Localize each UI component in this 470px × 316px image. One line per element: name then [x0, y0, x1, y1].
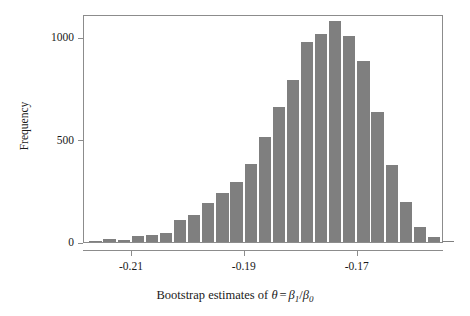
histogram-bar — [315, 34, 327, 242]
x-tick-label: -0.19 — [214, 260, 274, 272]
equals-symbol: = — [278, 288, 289, 302]
histogram-bar — [287, 80, 299, 242]
histogram-bar — [428, 237, 440, 242]
histogram-bar — [118, 240, 130, 242]
y-tick-label: 1000 — [51, 32, 74, 44]
histogram-bar — [174, 220, 186, 242]
histogram-bar — [202, 203, 214, 242]
histogram-figure: 05001000 Frequency -0.21-0.19-0.17 Boots… — [0, 0, 470, 316]
x-tick-label: -0.21 — [101, 260, 161, 272]
beta-denominator-subscript: 0 — [309, 294, 314, 304]
x-axis-title-prefix: Bootstrap estimates of — [156, 288, 271, 302]
histogram-bar — [230, 182, 242, 242]
plot-area — [83, 15, 443, 243]
histogram-bar — [89, 241, 101, 242]
x-tick-mark — [244, 251, 245, 256]
y-axis-title: Frequency — [18, 71, 30, 181]
x-tick-label: -0.17 — [327, 260, 387, 272]
theta-symbol: θ — [271, 288, 277, 302]
histogram-bar — [273, 107, 285, 242]
histogram-bar — [357, 61, 369, 242]
y-tick-label: 500 — [57, 135, 74, 147]
y-tick-mark — [78, 243, 83, 244]
histogram-bar — [188, 215, 200, 242]
histogram-bar — [301, 42, 313, 242]
y-tick-label: 0 — [68, 237, 74, 249]
histogram-bar — [160, 233, 172, 242]
x-tick-mark — [357, 251, 358, 256]
y-tick-mark — [78, 140, 83, 141]
histogram-bar — [103, 239, 115, 242]
histogram-bar — [216, 193, 228, 242]
x-axis-title: Bootstrap estimates of θ=β1/β0 — [0, 288, 470, 306]
y-tick-mark — [78, 38, 83, 39]
histogram-bar — [146, 235, 158, 242]
histogram-bar — [442, 241, 454, 242]
histogram-bar — [343, 36, 355, 242]
histogram-bar — [400, 202, 412, 242]
histogram-bars — [84, 16, 442, 242]
histogram-bar — [245, 164, 257, 242]
histogram-bar — [371, 112, 383, 242]
histogram-bar — [132, 236, 144, 242]
histogram-bar — [259, 137, 271, 242]
histogram-bar — [386, 165, 398, 242]
histogram-bar — [414, 227, 426, 242]
x-axis-line — [83, 250, 443, 251]
histogram-bar — [329, 21, 341, 242]
x-tick-mark — [131, 251, 132, 256]
